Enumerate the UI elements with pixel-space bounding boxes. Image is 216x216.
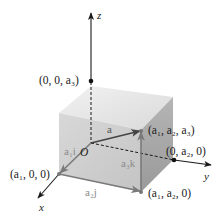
point-corner-bottom [139, 190, 143, 194]
vector-a3k-label: a₃k [121, 157, 136, 169]
label-z-point: (0, 0, a₃) [39, 74, 79, 87]
vector-components-diagram: z y x (0, 0, a₃) (a₁, 0, 0) (0, a₂, 0) (… [0, 0, 216, 216]
y-axis [174, 160, 211, 165]
rectangular-box [59, 86, 173, 192]
label-corner-bottom: (a₁, a₂, 0) [148, 187, 191, 200]
point-x [57, 172, 61, 176]
z-axis-label: z [96, 9, 102, 21]
label-corner-top: (a₁, a₂, a₃) [148, 124, 195, 137]
label-y-point: (0, a₂, 0) [166, 145, 206, 158]
vector-a1i-label: a₁i [64, 145, 76, 157]
point-z [89, 79, 94, 84]
vector-a-label: a [107, 123, 112, 135]
point-corner-top [139, 129, 143, 133]
label-x-point: (a₁, 0, 0) [10, 168, 50, 181]
x-axis-label: x [38, 201, 44, 213]
y-axis-label: y [203, 170, 209, 182]
origin-label: O [80, 146, 89, 158]
vector-a2j-label: a₂j [85, 186, 97, 198]
point-y [172, 158, 177, 163]
